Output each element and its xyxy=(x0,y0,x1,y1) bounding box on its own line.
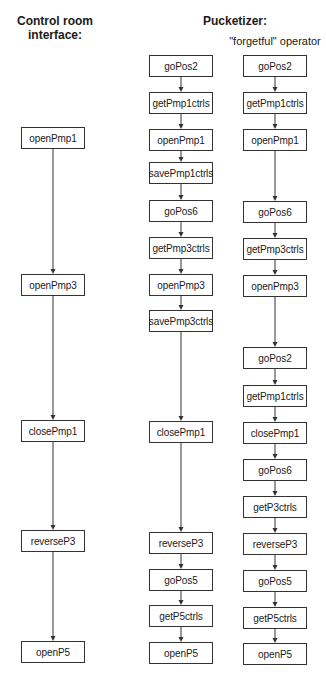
node-pucketizer-savepmp3ctrls: savePmp3ctrls xyxy=(149,310,213,332)
node-forgetful-operator-getp3ctrls: getP3ctrls xyxy=(243,496,307,518)
node-forgetful-operator-gopos2: goPos2 xyxy=(243,55,307,77)
node-pucketizer-openpmp1: openPmp1 xyxy=(149,129,213,151)
node-pucketizer-gopos5: goPos5 xyxy=(149,569,213,591)
node-control-room-reversep3: reverseP3 xyxy=(21,530,85,552)
node-forgetful-operator-getp5ctrls: getP5ctrls xyxy=(243,607,307,629)
node-forgetful-operator-closepmp1: closePmp1 xyxy=(243,422,307,444)
node-pucketizer-getpmp3ctrls: getPmp3ctrls xyxy=(149,237,213,259)
node-pucketizer-getpmp1ctrls: getPmp1ctrls xyxy=(149,92,213,114)
node-forgetful-operator-gopos6: goPos6 xyxy=(243,459,307,481)
node-control-room-openpmp3: openPmp3 xyxy=(21,274,85,296)
node-pucketizer-savepmp1ctrls: savePmp1ctrls xyxy=(149,162,213,184)
node-pucketizer-gopos6: goPos6 xyxy=(149,200,213,222)
node-pucketizer-closepmp1: closePmp1 xyxy=(149,421,213,443)
node-control-room-openp5: openP5 xyxy=(21,641,85,663)
node-forgetful-operator-gopos6: goPos6 xyxy=(243,201,307,223)
node-control-room-openpmp1: openPmp1 xyxy=(21,127,85,149)
node-pucketizer-gopos2: goPos2 xyxy=(149,55,213,77)
node-pucketizer-getp5ctrls: getP5ctrls xyxy=(149,605,213,627)
node-forgetful-operator-getpmp1ctrls: getPmp1ctrls xyxy=(243,385,307,407)
node-pucketizer-openpmp3: openPmp3 xyxy=(149,274,213,296)
node-forgetful-operator-getpmp3ctrls: getPmp3ctrls xyxy=(243,238,307,260)
node-pucketizer-reversep3: reverseP3 xyxy=(149,532,213,554)
node-pucketizer-openp5: openP5 xyxy=(149,642,213,664)
node-forgetful-operator-gopos2: goPos2 xyxy=(243,347,307,369)
node-control-room-closepmp1: closePmp1 xyxy=(21,420,85,442)
node-forgetful-operator-openpmp3: openPmp3 xyxy=(243,275,307,297)
node-forgetful-operator-reversep3: reverseP3 xyxy=(243,533,307,555)
node-forgetful-operator-getpmp1ctrls: getPmp1ctrls xyxy=(243,92,307,114)
node-forgetful-operator-openp5: openP5 xyxy=(243,643,307,665)
node-forgetful-operator-openpmp1: openPmp1 xyxy=(243,129,307,151)
node-forgetful-operator-gopos5: goPos5 xyxy=(243,570,307,592)
